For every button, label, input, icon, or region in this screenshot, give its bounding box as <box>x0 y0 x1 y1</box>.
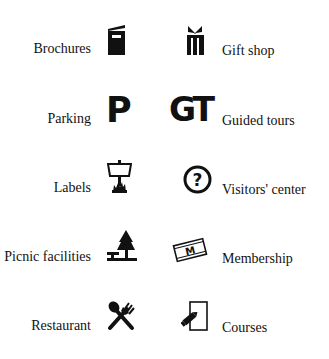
label-brochures: Brochures <box>33 41 91 57</box>
brochure-icon <box>108 25 125 55</box>
label-parking: Parking <box>47 111 91 127</box>
question-circle-icon: ? <box>183 165 212 194</box>
membership-card-icon: M <box>172 236 208 264</box>
fork-spoon-icon <box>107 301 135 331</box>
label-membership: Membership <box>222 251 293 267</box>
picnic-table-tree-icon <box>107 230 137 262</box>
label-courses: Courses <box>222 320 267 336</box>
gift-icon <box>187 26 204 55</box>
guided-tours-gt-icon: GT <box>169 93 212 127</box>
svg-text:?: ? <box>193 170 203 190</box>
label-restaurant: Restaurant <box>31 318 91 334</box>
label-gift-shop: Gift shop <box>222 43 275 59</box>
label-guided-tours: Guided tours <box>222 113 295 129</box>
parking-p-icon: P <box>106 93 132 127</box>
label-picnic-facilities: Picnic facilities <box>4 249 91 265</box>
label-visitors-center: Visitors' center <box>222 182 306 198</box>
label-labels: Labels <box>54 180 91 196</box>
signpost-label-icon <box>107 160 132 193</box>
courses-pencil-paper-icon <box>181 301 209 331</box>
svg-text:M: M <box>184 244 196 257</box>
